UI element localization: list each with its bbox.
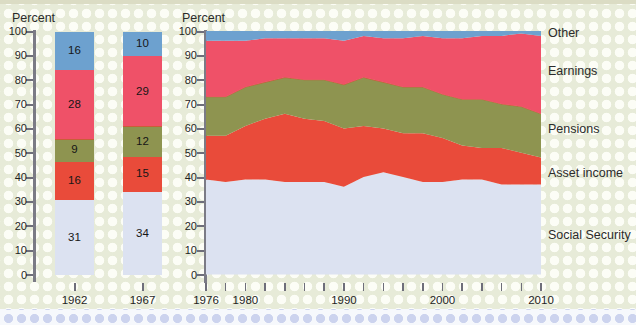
income-shares-figure: Percent 0102030405060708090100 311692816… <box>0 0 636 325</box>
segment-value-label: 29 <box>123 85 162 97</box>
legend-label-asset-income: Asset income <box>548 166 623 180</box>
y-tick-label: 90 <box>0 49 27 61</box>
y-tick-label: 10 <box>160 244 197 256</box>
segment-value-label: 16 <box>55 174 94 186</box>
x-tick <box>402 283 404 291</box>
y-tick <box>197 250 204 252</box>
y-tick-label: 0 <box>0 269 27 281</box>
segment-value-label: 12 <box>123 135 162 147</box>
segment-value-label: 15 <box>123 167 162 179</box>
x-tick <box>74 283 76 291</box>
y-tick <box>26 152 33 154</box>
segment-value-label: 9 <box>55 143 94 155</box>
x-tick <box>521 283 523 291</box>
x-tick <box>461 283 463 291</box>
y-tick <box>26 55 33 57</box>
legend-label-pensions: Pensions <box>548 122 599 136</box>
bar-chart-y-axis-title: Percent <box>12 11 55 25</box>
y-tick-label: 70 <box>160 98 197 110</box>
x-tick <box>225 283 227 291</box>
y-tick-label: 100 <box>0 25 27 37</box>
bar-year-label: 1967 <box>123 294 163 306</box>
y-tick <box>26 177 33 179</box>
y-tick <box>26 225 33 227</box>
x-tick <box>142 283 144 291</box>
y-tick <box>197 225 204 227</box>
x-tick <box>501 283 503 291</box>
y-tick <box>197 177 204 179</box>
y-tick-label: 30 <box>0 195 27 207</box>
y-tick <box>26 274 33 276</box>
top-edge-strip <box>0 0 636 4</box>
area-year-label: 2010 <box>521 294 561 306</box>
y-tick <box>197 104 204 106</box>
legend-label-earnings: Earnings <box>548 64 597 78</box>
y-tick <box>197 128 204 130</box>
segment-value-label: 16 <box>55 44 94 56</box>
y-tick <box>197 274 204 276</box>
segment-value-label: 31 <box>55 231 94 243</box>
y-tick <box>26 79 33 81</box>
y-tick-label: 50 <box>0 147 27 159</box>
y-tick-label: 50 <box>160 147 197 159</box>
x-tick <box>205 283 207 291</box>
area-chart-y-axis-title: Percent <box>182 11 225 25</box>
x-tick <box>363 283 365 291</box>
y-tick-label: 20 <box>0 220 27 232</box>
x-tick <box>323 283 325 291</box>
x-tick <box>245 283 247 291</box>
area-year-label: 1990 <box>324 294 364 306</box>
y-tick-label: 100 <box>160 25 197 37</box>
bar-chart-y-axis <box>33 30 37 282</box>
y-tick <box>197 152 204 154</box>
y-tick-label: 90 <box>160 49 197 61</box>
y-tick <box>197 31 204 33</box>
y-tick-label: 20 <box>160 220 197 232</box>
y-tick-label: 70 <box>0 98 27 110</box>
area-social-security <box>206 172 541 274</box>
legend-label-other: Other <box>548 26 579 40</box>
legend-label-social-security: Social Security <box>548 228 631 242</box>
y-tick-label: 30 <box>160 195 197 207</box>
x-tick <box>343 283 345 291</box>
bottom-edge-strip <box>0 309 636 325</box>
y-tick-label: 40 <box>0 171 27 183</box>
y-tick-label: 10 <box>0 244 27 256</box>
y-tick-label: 40 <box>160 171 197 183</box>
x-tick <box>304 283 306 291</box>
x-tick <box>264 283 266 291</box>
y-tick <box>26 250 33 252</box>
x-tick <box>540 283 542 291</box>
y-tick <box>26 104 33 106</box>
segment-value-label: 28 <box>55 98 94 110</box>
x-tick <box>422 283 424 291</box>
x-tick <box>383 283 385 291</box>
y-tick-label: 80 <box>0 74 27 86</box>
y-tick-label: 60 <box>0 122 27 134</box>
segment-value-label: 34 <box>123 227 162 239</box>
y-tick <box>26 31 33 33</box>
y-tick-label: 80 <box>160 74 197 86</box>
x-tick <box>284 283 286 291</box>
y-tick <box>26 201 33 203</box>
y-tick <box>26 128 33 130</box>
stacked-area-plot <box>206 31 541 275</box>
bar-year-label: 1962 <box>55 294 95 306</box>
x-tick <box>481 283 483 291</box>
y-tick-label: 60 <box>160 122 197 134</box>
segment-value-label: 10 <box>123 37 162 49</box>
area-year-label: 1980 <box>225 294 265 306</box>
y-tick-label: 0 <box>160 269 197 281</box>
y-tick <box>197 79 204 81</box>
area-year-label: 2000 <box>422 294 462 306</box>
y-tick <box>197 55 204 57</box>
y-tick <box>197 201 204 203</box>
x-tick <box>442 283 444 291</box>
area-year-label: 1976 <box>186 294 226 306</box>
